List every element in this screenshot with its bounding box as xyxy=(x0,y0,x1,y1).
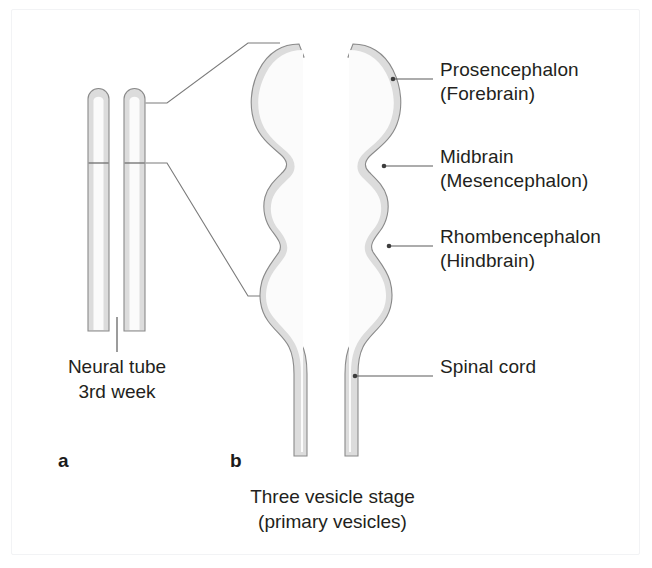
panel-letter-a: a xyxy=(58,450,69,472)
label-spinal-cord-line1: Spinal cord xyxy=(440,356,536,377)
caption-panel-a-line1: Neural tube xyxy=(68,356,166,377)
caption-panel-a-line2: 3rd week xyxy=(78,381,155,402)
leader-spinal-cord xyxy=(353,374,433,379)
neural-tube-right-wall xyxy=(124,89,145,332)
label-midbrain: Midbrain (Mesencephalon) xyxy=(440,145,588,193)
label-rhombencephalon-line2: (Hindbrain) xyxy=(440,249,601,273)
label-midbrain-line2: (Mesencephalon) xyxy=(440,169,588,193)
neural-tube-left-wall xyxy=(88,89,109,332)
label-rhombencephalon: Rhombencephalon (Hindbrain) xyxy=(440,225,601,273)
label-prosencephalon-line2: (Forebrain) xyxy=(440,82,579,106)
leader-midbrain xyxy=(382,164,433,169)
label-prosencephalon-line1: Prosencephalon xyxy=(440,59,579,80)
figure-root: .wall { fill:#dcdcdc; stroke:#8a8a8a; st… xyxy=(0,0,652,568)
vesicle-right-wall xyxy=(345,44,401,456)
label-spinal-cord: Spinal cord xyxy=(440,355,536,379)
caption-panel-b-line1: Three vesicle stage xyxy=(250,486,415,507)
leader-rhombencephalon xyxy=(387,244,433,249)
label-midbrain-line1: Midbrain xyxy=(440,146,514,167)
caption-panel-a: Neural tube 3rd week xyxy=(36,354,198,404)
label-prosencephalon: Prosencephalon (Forebrain) xyxy=(440,58,579,106)
label-rhombencephalon-line1: Rhombencephalon xyxy=(440,226,601,247)
vesicle-left-wall xyxy=(251,44,307,456)
caption-panel-b: Three vesicle stage (primary vesicles) xyxy=(215,484,450,534)
caption-panel-b-line2: (primary vesicles) xyxy=(258,511,407,532)
panel-letter-b: b xyxy=(230,450,242,472)
